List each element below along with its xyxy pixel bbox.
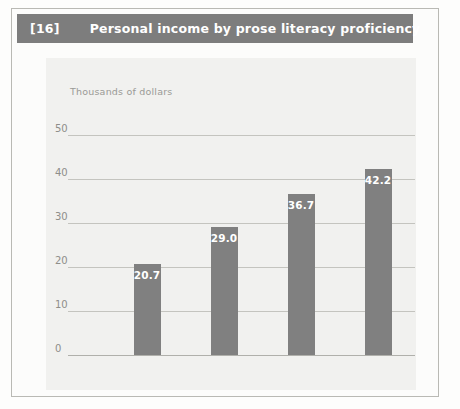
gridline-10 bbox=[68, 311, 415, 312]
bar-value-label: 36.7 bbox=[288, 199, 315, 211]
y-tick-label: 0 bbox=[55, 344, 75, 354]
gridline-50 bbox=[68, 135, 415, 136]
page-root: [16] Personal income by prose literacy p… bbox=[0, 0, 460, 409]
plot-area: 0102030405020.7Poor(Level 1)29.0Weak(Lev… bbox=[46, 58, 416, 390]
gridline-20 bbox=[68, 267, 415, 268]
y-tick-label: 30 bbox=[55, 212, 75, 222]
y-tick-label: 40 bbox=[55, 168, 75, 178]
bar bbox=[288, 194, 315, 355]
gridline-30 bbox=[68, 223, 415, 224]
x-axis-baseline bbox=[68, 355, 415, 356]
y-tick-label: 50 bbox=[55, 124, 75, 134]
bar-value-label: 42.2 bbox=[365, 174, 392, 186]
figure-number: [16] bbox=[30, 21, 60, 36]
gridline-40 bbox=[68, 179, 415, 180]
bar-value-label: 20.7 bbox=[134, 269, 161, 281]
figure-title: Personal income by prose literacy profic… bbox=[90, 21, 421, 36]
bar bbox=[211, 227, 238, 355]
y-tick-label: 10 bbox=[55, 300, 75, 310]
bar-value-label: 29.0 bbox=[211, 232, 238, 244]
bar bbox=[365, 169, 392, 355]
chart-header-banner: [16] Personal income by prose literacy p… bbox=[17, 14, 413, 43]
chart-panel: Thousands of dollars 0102030405020.7Poor… bbox=[46, 58, 416, 390]
y-tick-label: 20 bbox=[55, 256, 75, 266]
